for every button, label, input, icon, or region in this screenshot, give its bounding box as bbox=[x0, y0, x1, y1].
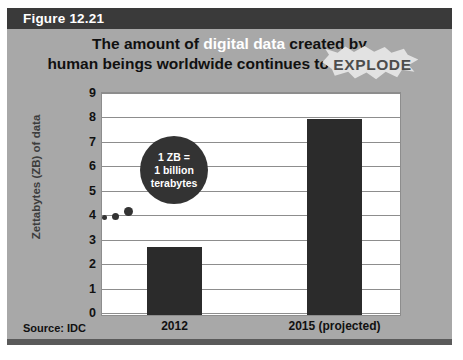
y-tick-label-0: 0 bbox=[89, 306, 96, 320]
trail-dot-medium bbox=[112, 213, 119, 220]
figure-panel: Figure 12.21 The amount of digital data … bbox=[7, 8, 452, 345]
callout-line-3: terabytes bbox=[151, 177, 198, 190]
bottom-rule bbox=[7, 339, 452, 345]
chart-title: The amount of digital data created by hu… bbox=[7, 34, 452, 75]
y-tick-label-8: 8 bbox=[89, 110, 96, 124]
y-tick-label-6: 6 bbox=[89, 159, 96, 173]
y-tick-label-7: 7 bbox=[89, 135, 96, 149]
y-tick-label-3: 3 bbox=[89, 233, 96, 247]
callout-line-1: 1 ZB = bbox=[158, 151, 190, 164]
title-text-line2: human beings worldwide continues to bbox=[47, 55, 333, 72]
explode-callout: EXPLODE bbox=[333, 55, 411, 75]
y-tick-label-2: 2 bbox=[89, 257, 96, 271]
y-tick-label-4: 4 bbox=[89, 208, 96, 222]
x-tick-label-2012: 2012 bbox=[137, 319, 212, 333]
gridline-9: 9 bbox=[102, 93, 400, 94]
source-label: Source: IDC bbox=[23, 322, 86, 334]
bar-2015 bbox=[307, 119, 362, 315]
explode-label: EXPLODE bbox=[333, 56, 411, 73]
y-tick-label-5: 5 bbox=[89, 184, 96, 198]
figure-header-bar: Figure 12.21 bbox=[7, 8, 452, 29]
trail-dot-large bbox=[124, 207, 133, 216]
bar-2012 bbox=[147, 247, 202, 315]
y-tick-label-9: 9 bbox=[89, 86, 96, 100]
callout-bubble: 1 ZB = 1 billion terabytes bbox=[140, 136, 208, 204]
trail-dot-small bbox=[102, 215, 107, 220]
y-tick-label-1: 1 bbox=[89, 282, 96, 296]
x-tick-label-2015: 2015 (projected) bbox=[282, 319, 387, 333]
chart-title-line-2: human beings worldwide continues to EXPL… bbox=[7, 54, 452, 75]
figure-number-label: Figure 12.21 bbox=[23, 11, 104, 26]
plot-area: 9 8 7 6 5 4 3 2 1 0 2012 2015 (projected… bbox=[101, 92, 401, 316]
callout-line-2: 1 billion bbox=[154, 164, 194, 177]
gridline-8: 8 bbox=[102, 117, 400, 118]
title-highlight-digital-data: digital data bbox=[203, 35, 285, 52]
y-axis-title: Zettabytes (ZB) of data bbox=[30, 92, 42, 262]
title-text-pre: The amount of bbox=[92, 35, 203, 52]
